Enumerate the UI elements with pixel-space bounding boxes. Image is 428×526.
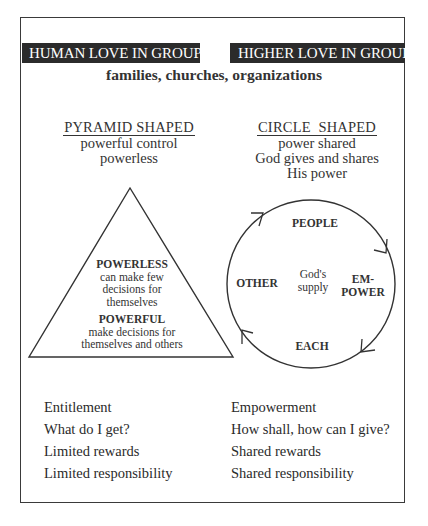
gods-supply-line-1: God's xyxy=(285,268,341,281)
pyramid-powerful-block: POWERFUL make decisions for themselves a… xyxy=(40,313,224,351)
list-item: Limited rewards xyxy=(44,440,172,462)
arrow-icon-left xyxy=(242,330,253,344)
circle-label-other: OTHER xyxy=(232,277,282,290)
empower-line-1: EM- xyxy=(338,273,388,286)
list-item: Shared responsibility xyxy=(231,462,390,484)
circle-label-empower: EM- POWER xyxy=(338,273,388,299)
powerful-label: POWERFUL xyxy=(99,313,165,325)
powerful-text-1: make decisions for xyxy=(40,326,224,339)
higher-love-traits-list: Empowerment How shall, how can I give? S… xyxy=(231,396,390,484)
powerless-text-3: themselves xyxy=(40,296,224,309)
list-item: Empowerment xyxy=(231,396,390,418)
list-item: What do I get? xyxy=(44,418,172,440)
gods-supply-label: God's supply xyxy=(285,268,341,294)
powerless-label: POWERLESS xyxy=(96,258,168,270)
list-item: Shared rewards xyxy=(231,440,390,462)
list-item: Limited responsibility xyxy=(44,462,172,484)
circle-label-people: PEOPLE xyxy=(280,217,350,230)
arrow-icon-right xyxy=(374,239,387,253)
powerless-text-2: decisions for xyxy=(40,283,224,296)
list-item: How shall, how can I give? xyxy=(231,418,390,440)
human-love-traits-list: Entitlement What do I get? Limited rewar… xyxy=(44,396,172,484)
circle-label-each: EACH xyxy=(282,340,342,353)
pyramid-powerless-block: POWERLESS can make few decisions for the… xyxy=(40,258,224,308)
empower-line-2: POWER xyxy=(338,286,388,299)
gods-supply-line-2: supply xyxy=(285,281,341,294)
list-item: Entitlement xyxy=(44,396,172,418)
powerful-text-2: themselves and others xyxy=(40,338,224,351)
powerless-text-1: can make few xyxy=(40,271,224,284)
